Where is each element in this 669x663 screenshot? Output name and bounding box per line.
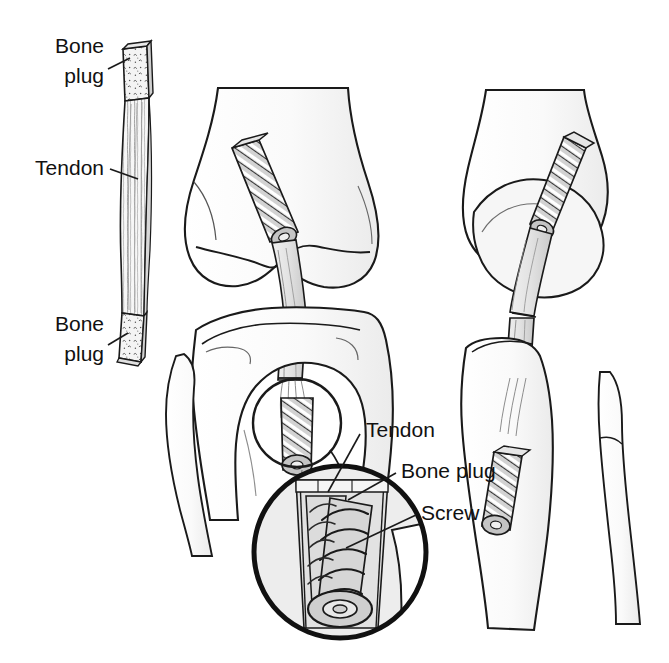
graft-bottom-bone-plug [117,312,147,366]
graft-top-bone-plug [123,41,153,101]
graft-tendon-body [120,98,151,316]
acl-reconstruction-figure: Bone plug Tendon Bone plug [0,0,669,663]
inset-screw-recess [333,605,347,613]
inset-bone-plug-label: Bone plug [401,459,496,482]
illustration-canvas: Bone plug Tendon Bone plug [0,0,669,663]
tibial-interference-screw [281,398,313,475]
graft-bone-plug-bottom-label-line2: plug [64,342,104,365]
graft-tendon-label: Tendon [35,156,104,179]
graft-bone-plug-top-label-line2: plug [64,64,104,87]
inset-tendon-label: Tendon [366,418,435,441]
graft-bone-plug-bottom-label-line1: Bone [55,312,104,335]
inset-screw-label: Screw [421,501,480,524]
graft-bone-plug-top-label-line1: Bone [55,34,104,57]
